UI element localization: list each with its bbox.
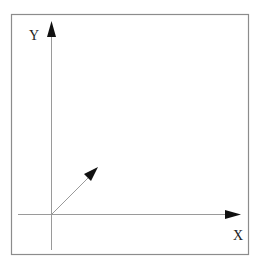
diagram-canvas: Y X bbox=[0, 0, 258, 263]
y-axis bbox=[47, 21, 56, 250]
frame-border bbox=[12, 15, 249, 255]
y-axis-label: Y bbox=[29, 28, 39, 43]
x-axis-label: X bbox=[233, 228, 243, 243]
y-axis-arrowhead-icon bbox=[47, 21, 56, 37]
x-axis-arrowhead-icon bbox=[225, 210, 241, 219]
vector-arrowhead-icon bbox=[84, 167, 98, 181]
vector-arrow bbox=[52, 167, 98, 214]
